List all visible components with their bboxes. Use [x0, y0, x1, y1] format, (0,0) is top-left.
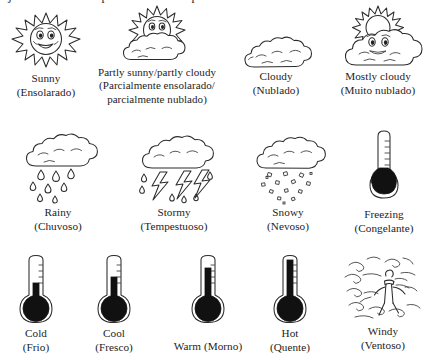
- caption-en-cold: Cold: [0, 327, 72, 341]
- caption-en-windy: Windy: [338, 325, 428, 339]
- caption-pt-freezing: (Congelante): [340, 222, 428, 236]
- weather-cell-warm: Warm (Morno): [156, 253, 260, 354]
- caption-en-snowy: Snowy: [236, 206, 340, 220]
- cold-thermometer-icon: [12, 253, 60, 327]
- caption-en-mostly-cloudy: Mostly cloudy: [330, 70, 426, 84]
- weather-cell-mostly-cloudy: Mostly cloudy (Muito nublado): [330, 4, 426, 97]
- caption-en-hot: Hot: [252, 327, 328, 341]
- weather-cell-freezing: Freezing (Congelante): [340, 124, 428, 235]
- stormy-icon: [122, 128, 226, 206]
- weather-cell-cool: Cool (Fresco): [74, 253, 154, 354]
- cloudy-icon: [232, 6, 320, 70]
- caption-pt-snowy: (Nevoso): [236, 220, 340, 234]
- weather-vocabulary-sheet: ojeto. As vezes um pais esses e a temper…: [0, 0, 428, 364]
- caption-pt-hot: (Quente): [252, 341, 328, 355]
- caption-pt-sunny: (Ensolarado): [0, 86, 92, 100]
- caption-pt-cool: (Fresco): [74, 341, 154, 355]
- caption-en-warm: Warm (Morno): [156, 340, 260, 354]
- caption-pt-rainy: (Chuvoso): [4, 220, 112, 234]
- weather-cell-cloudy: Cloudy (Nublado): [232, 6, 320, 97]
- weather-cell-hot: Hot (Quente): [252, 253, 328, 354]
- weather-cell-cold: Cold (Frio): [0, 253, 72, 354]
- hot-thermometer-icon: [266, 253, 314, 327]
- partly-sunny-icon: [105, 4, 209, 66]
- caption-en-freezing: Freezing: [340, 208, 428, 222]
- caption-en-stormy: Stormy: [118, 206, 230, 220]
- windy-icon: [341, 253, 425, 325]
- caption-pt-mostly-cloudy: (Muito nublado): [330, 84, 426, 98]
- weather-cell-rainy: Rainy (Chuvoso): [4, 124, 112, 233]
- weather-cell-windy: Windy (Ventoso): [338, 253, 428, 352]
- weather-cell-snowy: Snowy (Nevoso): [236, 128, 340, 233]
- rainy-icon: [8, 124, 108, 206]
- caption-en-rainy: Rainy: [4, 206, 112, 220]
- caption-en-cloudy: Cloudy: [232, 70, 320, 84]
- caption-en-sunny: Sunny: [0, 72, 92, 86]
- weather-cell-stormy: Stormy (Tempestuoso): [118, 128, 230, 233]
- caption-en-partly-sunny: Partly sunny/partly cloudy: [92, 66, 222, 79]
- caption-en-cool: Cool: [74, 327, 154, 341]
- warm-thermometer-icon: [184, 253, 232, 327]
- weather-cell-sunny: Sunny (Ensolarado): [0, 6, 92, 99]
- caption-pt-partly-sunny: (Parcialmente ensolarado/ parcialmente n…: [92, 79, 222, 106]
- caption-pt-cloudy: (Nublado): [232, 84, 320, 98]
- caption-pt-windy: (Ventoso): [338, 339, 428, 353]
- caption-pt-cold: (Frio): [0, 341, 72, 355]
- caption-pt-stormy: (Tempestuoso): [118, 220, 230, 234]
- snowy-icon: [240, 128, 336, 206]
- mostly-cloudy-icon: [332, 4, 424, 70]
- cool-thermometer-icon: [90, 253, 138, 327]
- weather-cell-partly-sunny: Partly sunny/partly cloudy (Parcialmente…: [92, 4, 222, 106]
- sunny-icon: [6, 6, 86, 72]
- freezing-thermometer-icon: [354, 124, 414, 208]
